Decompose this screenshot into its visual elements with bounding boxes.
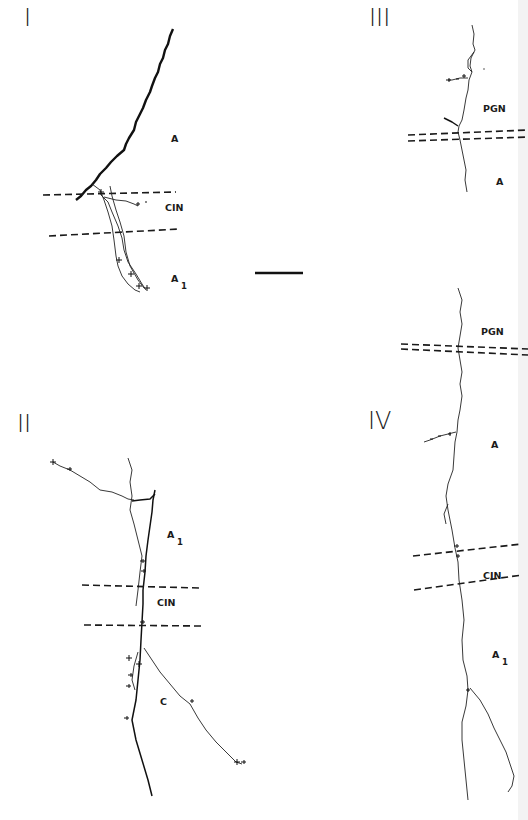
figure-canvas: I A CIN A 1 II: [0, 0, 528, 820]
layer-boundary-lower: [414, 575, 522, 590]
panel-label-II: II: [17, 410, 31, 438]
region-label-CIN: CIN: [157, 597, 176, 608]
panel-label-III: III: [369, 4, 390, 32]
axon-branch: [101, 195, 146, 290]
axon-collateral: [470, 688, 514, 792]
region-label-A1: A: [167, 529, 175, 540]
axon-collateral: [144, 648, 242, 764]
axon-main-branch: [132, 490, 155, 796]
panel-II: II A 1 CIN C: [17, 410, 246, 796]
region-label-A: A: [491, 439, 499, 450]
axon-trunk: [76, 29, 173, 200]
panel-I: I A CIN A 1: [24, 4, 187, 292]
layer-boundary-upper: [408, 130, 528, 135]
region-label-C: C: [160, 696, 167, 707]
axon-trunk: [458, 25, 475, 192]
region-label-A1-subscript: 1: [181, 281, 187, 291]
layer-boundary-pgn-lower: [401, 349, 528, 355]
panel-III: III PGN A: [369, 4, 528, 192]
layer-boundary-upper: [82, 585, 200, 588]
region-label-A1: A: [171, 273, 179, 284]
axon-junction: [132, 494, 155, 501]
region-label-CIN: CIN: [483, 570, 502, 581]
region-label-A1-subscript: 1: [177, 537, 183, 547]
layer-boundary-lower: [84, 625, 202, 626]
panel-label-IV: IV: [368, 407, 392, 435]
region-label-PGN: PGN: [481, 326, 504, 337]
bouton-cluster: [50, 459, 72, 471]
axon-collateral: [424, 432, 456, 442]
layer-boundary-upper: [413, 544, 522, 556]
region-label-A: A: [171, 133, 179, 144]
region-label-CIN: CIN: [165, 202, 184, 213]
bouton-cluster: [124, 559, 146, 720]
axon-collateral: [444, 118, 458, 126]
speck: [483, 68, 485, 70]
bouton-cluster: [430, 432, 451, 439]
layer-boundary-upper: [43, 192, 176, 195]
region-label-PGN: PGN: [483, 103, 506, 114]
axon-collateral: [53, 462, 134, 500]
region-label-A1-subscript: 1: [502, 657, 508, 667]
bouton-cluster: [190, 699, 246, 765]
bouton-cluster: [454, 544, 470, 692]
region-label-A1: A: [492, 649, 500, 660]
axon-trunk-thin: [128, 458, 142, 606]
page-edge-shadow: [518, 0, 528, 820]
layer-boundary-lower: [408, 137, 528, 141]
panel-IV: IV PGN A CIN A 1: [368, 288, 528, 800]
panel-label-I: I: [24, 4, 31, 32]
layer-boundary-lower: [49, 229, 180, 236]
bouton-cluster: [136, 202, 147, 206]
region-label-A: A: [496, 176, 504, 187]
layer-boundary-pgn-upper: [401, 344, 528, 349]
